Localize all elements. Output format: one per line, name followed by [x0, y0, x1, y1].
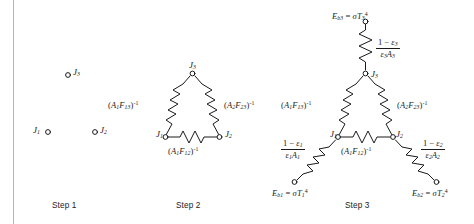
step3-node-eb2 [434, 180, 439, 185]
step2-resistor-23-label: (A2F23)-1 [224, 100, 254, 110]
step2-node-j1 [163, 135, 168, 140]
circuit-diagram-svg [0, 0, 474, 224]
step3-surface-resistor-3 [359, 24, 372, 70]
step3-surface-resistor-1-label: 1 − ε1 ε1A1 [281, 138, 305, 161]
step3-surface-resistor-3-label: 1 − ε3 ε3A3 [376, 37, 400, 60]
step2-resistor-12-label: (A1F12)-1 [168, 146, 198, 156]
step3-resistor-23 [368, 76, 392, 135]
step3-resistor-12 [341, 131, 390, 143]
step3-node-j2 [391, 135, 396, 140]
step3-label-j1: J1 [330, 130, 337, 139]
step2-resistor-13 [166, 76, 190, 135]
step3-node-eb1 [292, 180, 297, 185]
step3-resistor-12-label: (A1F12)-1 [341, 146, 371, 156]
step3-label-eb2: Eb2 = σT24 [412, 188, 448, 198]
step1-node-j1 [46, 130, 51, 135]
step3-label-eb1: Eb1 = σT14 [272, 188, 308, 198]
step3-resistor-23-label: (A2F23)-1 [397, 100, 427, 110]
step2-resistor-12 [168, 131, 217, 143]
step2-label-j1: J1 [156, 130, 163, 139]
step1-label-j3: J3 [73, 68, 80, 77]
step3-label-j2: J2 [396, 130, 403, 139]
radiation-network-figure: J1 J2 J3 J1 J2 J3 (A1F13)-1 (A2F23)-1 (A… [0, 0, 474, 224]
step3-resistor-13-label: (A1F13)-1 [281, 100, 311, 110]
step3-node-j3 [363, 71, 368, 76]
step2-node-j2 [217, 135, 222, 140]
step2-label-j2: J2 [225, 130, 232, 139]
step1-label-j2: J2 [100, 126, 107, 135]
step1-label-j1: J1 [33, 126, 40, 135]
step1-node-j3 [66, 73, 71, 78]
step1-node-j2 [93, 130, 98, 135]
caption-step-1: Step 1 [52, 201, 77, 210]
step2-label-j3: J3 [189, 61, 196, 70]
step2-resistor-13-label: (A1F13)-1 [108, 100, 138, 110]
step3-label-eb3: Eb3 = σT34 [332, 11, 368, 21]
step3-resistor-13 [339, 76, 363, 135]
step3-label-j3: J3 [371, 70, 378, 79]
step3-surface-resistor-2-label: 1 − ε2 ε2A2 [421, 138, 445, 161]
caption-step-2: Step 2 [176, 201, 201, 210]
step2-node-j3 [190, 71, 195, 76]
step2-resistor-23 [195, 76, 219, 135]
caption-step-3: Step 3 [345, 201, 370, 210]
